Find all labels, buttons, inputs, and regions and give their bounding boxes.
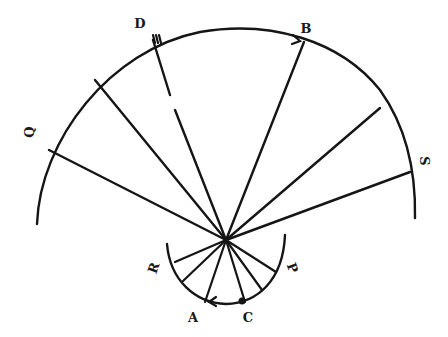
- radial-spokes: [49, 42, 410, 302]
- spoke-d-lower: [175, 110, 226, 240]
- spoke-q: [49, 150, 226, 240]
- label-s: S: [417, 156, 432, 165]
- dot-marker-icon: [239, 298, 246, 305]
- label-p: P: [284, 261, 302, 276]
- spoke-s: [226, 172, 410, 240]
- inner-spoke: [226, 240, 262, 290]
- inner-spoke: [175, 240, 226, 262]
- spoke-b: [226, 42, 304, 240]
- label-q: Q: [22, 126, 37, 137]
- hatch-marker-icon: [153, 35, 161, 43]
- dashed-spoke-D: [153, 40, 226, 240]
- point-labels: DBQSRPAC: [22, 16, 432, 325]
- spoke-d-upper: [153, 40, 170, 95]
- spoke-unnamed-left: [95, 80, 226, 240]
- diagram-canvas: DBQSRPAC: [0, 0, 448, 337]
- label-b: B: [301, 21, 312, 36]
- label-r: R: [145, 260, 163, 275]
- label-d: D: [134, 16, 145, 31]
- label-c: C: [243, 310, 253, 325]
- spoke-unnamed-right: [226, 108, 380, 240]
- inner-arc: [167, 235, 285, 304]
- label-a: A: [187, 310, 199, 325]
